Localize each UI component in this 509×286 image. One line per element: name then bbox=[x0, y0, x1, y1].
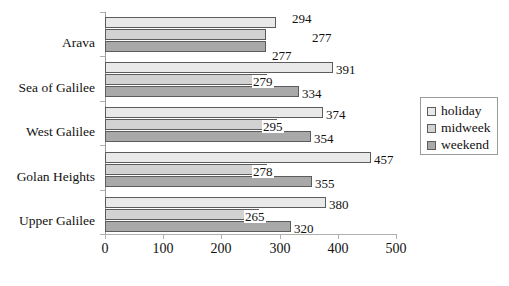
value-label-arava-midweek: 277 bbox=[312, 31, 332, 44]
bar-chart: 0 100 200 300 400 500 Arava Sea of Galil… bbox=[0, 0, 509, 286]
bar-arava-midweek bbox=[105, 29, 266, 40]
value-label-west-galilee-weekend: 354 bbox=[314, 132, 334, 145]
bar-arava-holiday bbox=[105, 17, 276, 28]
value-label-upper-galilee-holiday: 380 bbox=[329, 198, 349, 211]
x-axis-tick bbox=[338, 234, 339, 239]
x-tick-label-300: 300 bbox=[250, 241, 310, 257]
x-tick-label-400: 400 bbox=[308, 241, 368, 257]
bar-upper-galilee-midweek bbox=[105, 209, 259, 220]
x-axis-tick bbox=[280, 234, 281, 239]
value-label-golan-heights-weekend: 355 bbox=[315, 177, 335, 190]
y-axis-tick bbox=[100, 12, 105, 13]
midweek-swatch-icon bbox=[427, 124, 436, 133]
bar-sea-of-galilee-midweek bbox=[105, 74, 267, 85]
value-label-arava-holiday: 294 bbox=[292, 12, 312, 25]
holiday-swatch-icon bbox=[427, 107, 436, 116]
x-axis-tick bbox=[221, 234, 222, 239]
category-label-upper-galilee: Upper Galilee bbox=[19, 214, 95, 228]
x-axis-tick bbox=[163, 234, 164, 239]
value-label-golan-heights-holiday: 457 bbox=[374, 153, 394, 166]
legend-item-weekend: weekend bbox=[427, 137, 497, 153]
value-label-sea-of-galilee-holiday: 391 bbox=[336, 63, 356, 76]
y-axis-tick bbox=[100, 101, 105, 102]
bar-golan-heights-midweek bbox=[105, 164, 267, 175]
x-tick-label-500: 500 bbox=[366, 241, 426, 257]
value-label-arava-weekend: 277 bbox=[272, 49, 292, 62]
bar-upper-galilee-holiday bbox=[105, 197, 326, 208]
legend-label-weekend: weekend bbox=[441, 138, 489, 152]
value-label-upper-galilee-weekend: 320 bbox=[294, 222, 314, 235]
value-label-golan-heights-midweek: 278 bbox=[252, 165, 274, 178]
bar-golan-heights-weekend bbox=[105, 176, 312, 187]
legend-label-midweek: midweek bbox=[441, 121, 491, 135]
legend-item-holiday: holiday bbox=[427, 103, 497, 119]
category-label-golan-heights: Golan Heights bbox=[17, 170, 95, 184]
x-axis-tick bbox=[105, 234, 106, 239]
x-tick-label-0: 0 bbox=[75, 241, 135, 257]
bar-sea-of-galilee-holiday bbox=[105, 62, 333, 73]
legend-label-holiday: holiday bbox=[441, 104, 482, 118]
y-axis-tick bbox=[100, 145, 105, 146]
bar-west-galilee-holiday bbox=[105, 107, 323, 118]
value-label-west-galilee-midweek: 295 bbox=[262, 120, 284, 133]
weekend-swatch-icon bbox=[427, 141, 436, 150]
y-axis-tick bbox=[100, 56, 105, 57]
x-tick-label-100: 100 bbox=[133, 241, 193, 257]
x-axis-line bbox=[105, 234, 397, 235]
y-axis-tick bbox=[100, 190, 105, 191]
x-axis-tick bbox=[396, 234, 397, 239]
category-label-sea-of-galilee: Sea of Galilee bbox=[19, 81, 95, 95]
chart-legend: holiday midweek weekend bbox=[420, 97, 498, 155]
bar-arava-weekend bbox=[105, 41, 266, 52]
value-label-west-galilee-holiday: 374 bbox=[326, 108, 346, 121]
legend-item-midweek: midweek bbox=[427, 120, 497, 136]
value-label-sea-of-galilee-weekend: 334 bbox=[302, 87, 322, 100]
value-label-upper-galilee-midweek: 265 bbox=[244, 210, 266, 223]
value-label-sea-of-galilee-midweek: 279 bbox=[252, 75, 274, 88]
bar-west-galilee-midweek bbox=[105, 119, 277, 130]
category-label-arava: Arava bbox=[62, 36, 95, 50]
category-label-west-galilee: West Galilee bbox=[26, 125, 95, 139]
x-tick-label-200: 200 bbox=[191, 241, 251, 257]
bar-golan-heights-holiday bbox=[105, 152, 371, 163]
